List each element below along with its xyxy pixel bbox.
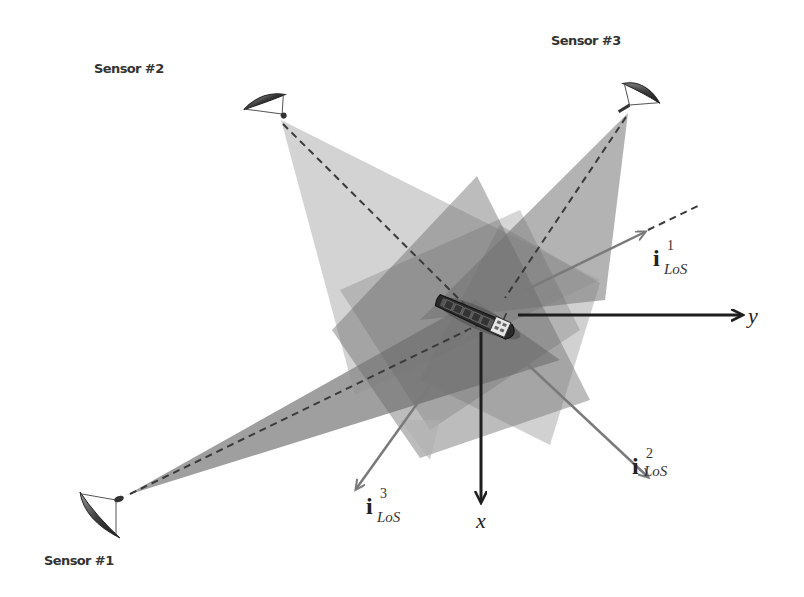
los-vector-2-subscript: LoS (643, 463, 668, 479)
sensor-2-label: Sensor #2 (94, 61, 164, 76)
sensor-3-label: Sensor #3 (551, 33, 621, 48)
x-axis-label: x (475, 508, 486, 533)
los-vector-1-superscript: 1 (667, 238, 674, 253)
los-vector-1-subscript: LoS (663, 261, 688, 277)
y-axis-label: y (746, 303, 758, 328)
sensor-1-label: Sensor #1 (44, 553, 114, 568)
los-vector-2-label: i 2 LoS (632, 446, 668, 479)
los-vector-1-label: i 1 LoS (653, 238, 688, 277)
los-vector-3-label: i 3 LoS (366, 486, 401, 525)
sensor-3-dish-icon (613, 79, 664, 124)
dashed-los-extension-1 (648, 204, 702, 230)
los-vector-2-superscript: 2 (646, 446, 653, 461)
los-vector-1-symbol: i (653, 245, 660, 271)
los-vector-3-superscript: 3 (380, 486, 387, 501)
los-vector-2-symbol: i (632, 453, 639, 479)
sensor-geometry-diagram: Sensor #2 Sensor #3 Sensor #1 y x i 1 Lo… (0, 0, 804, 597)
sensor-1-dish-icon (80, 492, 125, 538)
los-vector-3-symbol: i (366, 493, 373, 519)
los-vector-3-subscript: LoS (376, 509, 401, 525)
